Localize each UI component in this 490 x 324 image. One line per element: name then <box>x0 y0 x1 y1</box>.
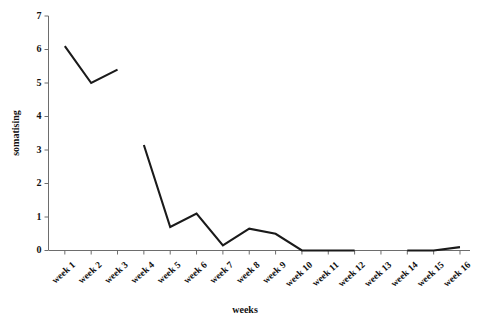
x-axis-tick-labels: week 1week 2week 3week 4week 5week 6week… <box>50 259 473 288</box>
y-axis-tick-label: 4 <box>37 110 42 121</box>
x-axis-tick-label: week 15 <box>415 259 446 288</box>
x-axis: week 1week 2week 3week 4week 5week 6week… <box>49 251 473 316</box>
x-axis-tick-label: week 2 <box>76 259 103 285</box>
chart-container: 01234567 somatising week 1week 2week 3we… <box>0 0 490 324</box>
y-axis-tick-labels: 01234567 <box>37 10 42 256</box>
y-axis-ticks <box>45 16 49 251</box>
x-axis-tick-label: week 5 <box>155 259 182 285</box>
x-axis-tick-label: week 8 <box>234 259 261 285</box>
y-axis-tick-label: 7 <box>37 10 42 21</box>
y-axis-tick-label: 6 <box>37 43 42 54</box>
y-axis-tick-label: 3 <box>37 144 42 155</box>
x-axis-tick-label: week 12 <box>336 259 367 288</box>
x-axis-tick-label: week 7 <box>208 259 235 285</box>
series-line-somatising <box>407 247 460 250</box>
series-line-somatising <box>65 46 118 83</box>
y-axis-tick-label: 1 <box>37 211 42 222</box>
y-axis-tick-label: 2 <box>37 177 42 188</box>
x-axis-tick-label: week 4 <box>129 259 156 285</box>
series-line-somatising <box>144 145 355 251</box>
x-axis-tick-label: week 14 <box>389 259 420 288</box>
y-axis-tick-label: 0 <box>37 244 42 255</box>
x-axis-tick-label: week 11 <box>310 259 341 288</box>
x-axis-ticks <box>65 251 460 255</box>
data-series <box>65 46 460 250</box>
line-chart: 01234567 somatising week 1week 2week 3we… <box>0 0 490 324</box>
x-axis-tick-label: week 16 <box>442 259 473 288</box>
x-axis-tick-label: week 13 <box>362 259 393 288</box>
x-axis-tick-label: week 3 <box>103 259 130 285</box>
x-axis-tick-label: week 10 <box>283 259 314 288</box>
x-axis-tick-label: week 6 <box>182 259 209 285</box>
y-axis-tick-label: 5 <box>37 77 42 88</box>
y-axis-title: somatising <box>10 110 21 156</box>
x-axis-title: weeks <box>232 304 258 315</box>
y-axis: 01234567 somatising <box>10 10 49 256</box>
x-axis-tick-label: week 1 <box>50 259 77 285</box>
